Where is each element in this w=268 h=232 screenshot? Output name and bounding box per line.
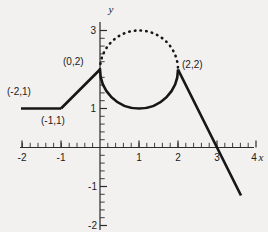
y-axis-minor-ticks — [100, 38, 105, 217]
x-axis-label: x — [258, 151, 264, 163]
y-tick-label--2: -2 — [88, 220, 97, 231]
x-tick-label--1: -1 — [57, 152, 66, 163]
label-0-2: (0,2) — [63, 56, 84, 67]
x-tick-label-3: 3 — [214, 152, 220, 163]
graph-canvas: -2 -1 1 2 3 4 3 1 -1 -2 x y (-2,1) (-1,1… — [0, 0, 268, 232]
axes-group — [20, 22, 254, 230]
curve-lower-semicircle — [100, 70, 178, 109]
x-tick-label-2: 2 — [175, 152, 181, 163]
graph-figure: -2 -1 1 2 3 4 3 1 -1 -2 x y (-2,1) (-1,1… — [0, 0, 268, 232]
x-tick-label-1: 1 — [136, 152, 142, 163]
function-curve — [21, 70, 241, 196]
y-axis-major-ticks — [100, 31, 107, 226]
label-neg1-1: (-1,1) — [41, 115, 65, 126]
y-tick-label--1: -1 — [88, 181, 97, 192]
curve-falling-segment — [178, 70, 241, 196]
label-2-2: (2,2) — [182, 59, 203, 70]
x-axis-major-ticks — [22, 141, 256, 148]
y-tick-label-1: 1 — [90, 103, 96, 114]
label-neg2-1: (-2,1) — [7, 86, 31, 97]
y-axis-label: y — [108, 3, 114, 15]
curve-upper-semicircle-dotted — [100, 31, 178, 70]
x-tick-label-4: 4 — [251, 152, 257, 163]
x-tick-label--2: -2 — [18, 152, 27, 163]
y-tick-label-3: 3 — [90, 25, 96, 36]
